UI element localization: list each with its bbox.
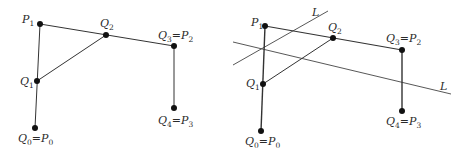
label-q3-p2: Q3=P2 xyxy=(158,29,193,44)
point-q3 xyxy=(171,43,177,49)
line-l-steep xyxy=(233,11,328,65)
label-line-l-shallow: L xyxy=(439,80,447,93)
label-q1: Q1 xyxy=(246,77,260,92)
polygon-diagram: P1 Q2 Q3=P2 Q1 Q0=P0 Q4=P3 L L P1 Q2 Q3=… xyxy=(0,0,467,152)
right-panel: L L P1 Q2 Q3=P2 Q1 Q0=P0 Q4=P3 xyxy=(233,6,451,150)
edge-p1-q0 xyxy=(35,24,40,128)
point-q3 xyxy=(399,47,405,53)
label-p1: P1 xyxy=(21,13,34,28)
label-q0-p0: Q0=P0 xyxy=(245,135,280,150)
edge-q1-q2 xyxy=(263,38,333,84)
label-q1: Q1 xyxy=(20,75,34,90)
label-q2: Q2 xyxy=(100,17,114,32)
edge-q1-q2 xyxy=(37,35,106,81)
left-panel: P1 Q2 Q3=P2 Q1 Q0=P0 Q4=P3 xyxy=(18,13,193,147)
label-p1: P1 xyxy=(250,16,263,31)
label-q4-p3: Q4=P3 xyxy=(158,114,193,129)
point-q4 xyxy=(399,108,405,114)
point-q2 xyxy=(330,35,336,41)
label-line-l-steep: L xyxy=(311,6,319,19)
point-q0 xyxy=(258,128,264,134)
point-q4 xyxy=(171,105,177,111)
point-p1 xyxy=(37,21,43,27)
point-q1 xyxy=(34,78,40,84)
point-q2 xyxy=(103,32,109,38)
label-q3-p2: Q3=P2 xyxy=(386,32,421,47)
edge-p1-q0 xyxy=(261,26,265,131)
label-q2: Q2 xyxy=(328,21,342,36)
point-q0 xyxy=(32,125,38,131)
label-q4-p3: Q4=P3 xyxy=(386,115,421,130)
point-q1 xyxy=(260,81,266,87)
line-l-shallow xyxy=(233,42,451,94)
label-q0-p0: Q0=P0 xyxy=(18,132,53,147)
